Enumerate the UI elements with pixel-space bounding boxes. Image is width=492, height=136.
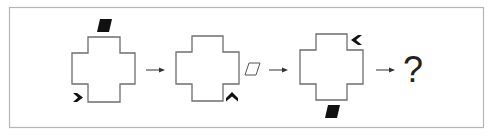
panel-3 xyxy=(300,34,363,118)
panel-1 xyxy=(72,19,135,102)
puzzle-figure: ? xyxy=(0,0,492,136)
chevron-up-icon xyxy=(226,92,238,102)
hollow-parallelogram-icon xyxy=(245,63,260,75)
chevron-left-icon xyxy=(351,35,362,45)
filled-parallelogram-icon xyxy=(97,19,112,32)
cross-shape-2 xyxy=(176,36,239,101)
cross-shape-3 xyxy=(300,34,363,100)
chevron-right-icon xyxy=(73,93,83,102)
arrow-1 xyxy=(146,68,165,73)
cross-shape-1 xyxy=(72,37,135,102)
arrow-2 xyxy=(269,68,288,73)
filled-parallelogram-icon xyxy=(325,105,340,118)
arrow-3 xyxy=(376,68,395,73)
panel-2 xyxy=(176,36,260,102)
answer-placeholder: ? xyxy=(403,49,423,90)
